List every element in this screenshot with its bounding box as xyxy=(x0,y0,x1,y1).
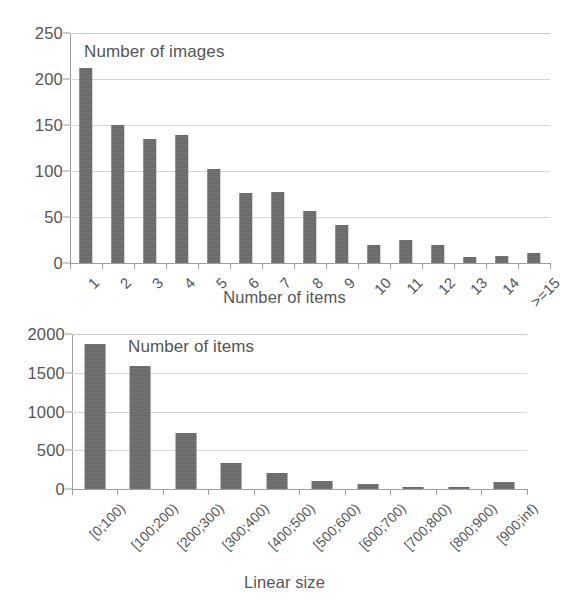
bar xyxy=(239,193,252,263)
x-tickmark xyxy=(166,263,198,269)
x-tickmark xyxy=(518,263,550,269)
y-tickmark xyxy=(65,450,72,451)
x-tickmark xyxy=(454,263,486,269)
bar xyxy=(271,192,284,263)
y-tick-label: 200 xyxy=(35,70,63,89)
bar-slot xyxy=(422,33,454,263)
x-tickmark xyxy=(391,489,437,495)
y-tickmark xyxy=(65,372,72,373)
x-tick-label: [600;700) xyxy=(355,500,408,553)
x-tick-label: [200;300) xyxy=(173,500,226,553)
y-tick-label: 100 xyxy=(35,162,63,181)
bar-slot xyxy=(209,334,255,489)
y-tick-label: 1500 xyxy=(27,363,65,382)
bar xyxy=(335,225,348,263)
bar xyxy=(111,125,124,263)
bar-slot xyxy=(230,33,262,263)
y-tickmark xyxy=(65,411,72,412)
x-tickmark xyxy=(70,263,102,269)
bar-series-bottom xyxy=(72,334,527,489)
y-tick-label: 250 xyxy=(35,24,63,43)
bar xyxy=(207,169,220,263)
x-tickmarks-bottom xyxy=(72,489,527,495)
bar xyxy=(312,481,333,489)
bar xyxy=(84,344,105,489)
y-tick-label: 0 xyxy=(54,254,63,273)
bar-slot xyxy=(482,334,528,489)
bar xyxy=(175,433,196,489)
x-tick-label: [100;200) xyxy=(128,500,181,553)
x-tickmark xyxy=(436,489,482,495)
x-axis-title-top: Number of items xyxy=(0,288,569,307)
y-tick-label: 50 xyxy=(44,208,63,227)
y-tickmark xyxy=(65,334,72,335)
y-tick-label: 500 xyxy=(37,441,65,460)
x-tickmark xyxy=(72,489,118,495)
x-tick-label: [800;900) xyxy=(446,500,499,553)
y-tickmark xyxy=(63,125,70,126)
y-tick-label: 2000 xyxy=(27,325,65,344)
x-tickmark xyxy=(300,489,346,495)
plot-area-top: 050100150200250 xyxy=(70,33,550,263)
x-tickmark xyxy=(486,263,518,269)
bar-slot xyxy=(118,334,164,489)
bar-slot xyxy=(391,334,437,489)
bar-slot xyxy=(390,33,422,263)
chart-number-of-images: Number of images 050100150200250 1234567… xyxy=(0,0,569,310)
bar-slot xyxy=(436,334,482,489)
x-tickmark xyxy=(254,489,300,495)
x-tickmark xyxy=(294,263,326,269)
y-tickmark xyxy=(63,33,70,34)
y-tickmark xyxy=(63,217,70,218)
x-tickmark xyxy=(482,489,528,495)
x-tickmarks-top xyxy=(70,263,550,269)
bar xyxy=(431,245,444,263)
bar-slot xyxy=(198,33,230,263)
y-tick-label: 1000 xyxy=(27,402,65,421)
bar-slot xyxy=(294,33,326,263)
x-tickmark xyxy=(209,489,255,495)
bar-slot xyxy=(326,33,358,263)
bar-slot xyxy=(166,33,198,263)
bar xyxy=(303,211,316,263)
bar-slot xyxy=(518,33,550,263)
bar-slot xyxy=(70,33,102,263)
x-tick-label: [900;inf) xyxy=(494,500,541,547)
x-tick-label: [300;400) xyxy=(219,500,272,553)
y-tick-label: 0 xyxy=(56,480,65,499)
bar xyxy=(527,253,540,263)
bar xyxy=(399,240,412,263)
bar-slot xyxy=(454,33,486,263)
bar xyxy=(143,139,156,263)
bar xyxy=(494,482,515,489)
y-tickmark xyxy=(63,171,70,172)
bar xyxy=(130,366,151,489)
chart-number-of-items: Number of items 0500100015002000 [0;100)… xyxy=(0,310,569,615)
x-tickmark xyxy=(102,263,134,269)
bar-slot xyxy=(102,33,134,263)
bar-slot xyxy=(345,334,391,489)
x-tickmark xyxy=(390,263,422,269)
x-tickmark xyxy=(198,263,230,269)
bar-slot xyxy=(300,334,346,489)
bar xyxy=(495,256,508,263)
bar-slot xyxy=(358,33,390,263)
x-tick-label: [700;800) xyxy=(401,500,454,553)
bar xyxy=(367,245,380,263)
bar-slot xyxy=(134,33,166,263)
plot-area-bottom: 0500100015002000 xyxy=(72,334,527,489)
x-tickmark xyxy=(422,263,454,269)
x-tick-label: [0;100) xyxy=(86,500,128,542)
bar xyxy=(221,463,242,489)
x-axis-title-bottom: Linear size xyxy=(0,573,569,592)
bar-slot xyxy=(163,334,209,489)
x-tickmark xyxy=(326,263,358,269)
x-tickmark xyxy=(230,263,262,269)
x-tickmark xyxy=(345,489,391,495)
x-tick-label: [500;600) xyxy=(310,500,363,553)
bar-slot xyxy=(262,33,294,263)
bar xyxy=(266,473,287,489)
bar xyxy=(175,135,188,263)
y-tickmark xyxy=(63,79,70,80)
x-tickmark xyxy=(358,263,390,269)
